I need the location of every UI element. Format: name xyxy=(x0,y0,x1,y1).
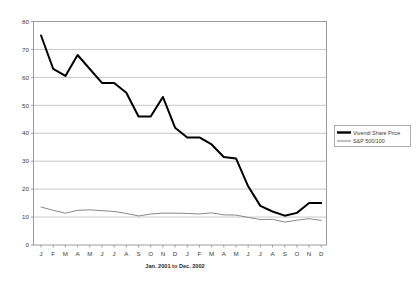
x-tick-label: M xyxy=(209,250,214,257)
legend-label-vivendi: Vivendi Share Price xyxy=(353,130,400,136)
x-tick-label: S xyxy=(136,250,140,257)
y-tick-label: 20 xyxy=(22,185,29,192)
y-tick-label: 10 xyxy=(22,213,29,220)
y-tick-label: 0 xyxy=(26,241,30,248)
x-tick-label: J xyxy=(100,250,103,257)
x-tick-label: M xyxy=(87,250,92,257)
x-tick-label: F xyxy=(51,250,55,257)
x-tick-label: N xyxy=(307,250,311,257)
y-tick-label: 40 xyxy=(22,129,29,136)
x-tick-label: D xyxy=(319,250,324,257)
x-tick-label: F xyxy=(198,250,202,257)
x-tick-label: M xyxy=(63,250,68,257)
legend: Vivendi Share Price S&P 500/100 xyxy=(335,126,411,147)
x-tick-label: J xyxy=(113,250,116,257)
x-tick-label: J xyxy=(40,250,43,257)
line-chart: 01020304050607080 JFMAMJJASONDJFMAMJJASO… xyxy=(0,0,417,288)
x-tick-label: J xyxy=(186,250,189,257)
x-tick-label: S xyxy=(283,250,287,257)
legend-label-sp500: S&P 500/100 xyxy=(353,138,385,144)
y-tick-label: 50 xyxy=(22,102,29,109)
x-tick-label: D xyxy=(173,250,178,257)
x-tick-label: J xyxy=(247,250,250,257)
x-tick-label: O xyxy=(148,250,153,257)
x-axis-title: Jan. 2001 to Dec. 2002 xyxy=(145,263,204,269)
x-tick-label: J xyxy=(259,250,262,257)
x-tick-label: O xyxy=(294,250,299,257)
x-tick-label: M xyxy=(233,250,238,257)
y-tick-label: 60 xyxy=(22,74,29,81)
chart-container: 01020304050607080 JFMAMJJASONDJFMAMJJASO… xyxy=(0,0,417,288)
y-tick-label: 30 xyxy=(22,157,29,164)
y-tick-label: 70 xyxy=(22,46,29,53)
x-tick-label: N xyxy=(161,250,165,257)
y-tick-label: 80 xyxy=(22,18,29,25)
